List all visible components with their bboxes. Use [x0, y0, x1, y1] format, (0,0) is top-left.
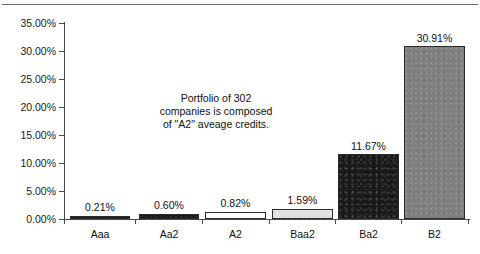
y-axis-tick-label: 20.00% [0, 102, 56, 113]
chart-annotation-line-2: companies is composed [131, 105, 301, 118]
bar-value-label-baa2: 1.59% [272, 194, 333, 206]
y-axis-tick [59, 191, 65, 192]
chart-annotation: Portfolio of 302 companies is composed o… [131, 92, 301, 131]
bar-value-label-b2: 30.91% [404, 32, 465, 44]
x-axis-category-label-aaa: Aaa [70, 228, 130, 240]
x-axis-tick [135, 219, 136, 224]
y-axis-tick-label: 0.00% [0, 214, 56, 225]
y-axis-tick-label: 35.00% [0, 18, 56, 29]
bar-aa2[interactable] [139, 214, 199, 219]
bar-value-label-aaa: 0.21% [70, 201, 130, 213]
y-axis-tick-label: 25.00% [0, 74, 56, 85]
chart-figure: 0.00% 5.00% 10.00% 15.00% 20.00% 25.00% … [0, 0, 480, 254]
x-axis-category-label-baa2: Baa2 [272, 228, 333, 240]
bar-b2[interactable] [404, 46, 465, 219]
y-axis-tick-label: 5.00% [0, 186, 56, 197]
bar-value-label-aa2: 0.60% [139, 199, 199, 211]
chart-annotation-line-1: Portfolio of 302 [131, 92, 301, 105]
y-axis-tick [59, 163, 65, 164]
bar-value-label-a2: 0.82% [205, 197, 266, 209]
x-axis-tick [64, 219, 65, 224]
y-axis-tick [59, 135, 65, 136]
x-axis-tick [202, 219, 203, 224]
x-axis-category-label-b2: B2 [404, 228, 465, 240]
chart-annotation-line-3: of "A2" aveage credits. [131, 118, 301, 131]
x-axis-line [64, 219, 470, 220]
y-axis-tick-label: 15.00% [0, 130, 56, 141]
y-axis-tick-label: 30.00% [0, 46, 56, 57]
bar-baa2[interactable] [272, 209, 333, 219]
y-axis-tick [59, 51, 65, 52]
x-axis-category-label-aa2: Aa2 [139, 228, 199, 240]
y-axis-tick-label: 10.00% [0, 158, 56, 169]
plot-area: 0.00% 5.00% 10.00% 15.00% 20.00% 25.00% … [0, 0, 480, 254]
x-axis-category-label-a2: A2 [205, 228, 266, 240]
x-axis-tick [269, 219, 270, 224]
bar-a2[interactable] [205, 212, 266, 219]
x-axis-tick [401, 219, 402, 224]
bar-ba2[interactable] [338, 154, 399, 219]
x-axis-category-label-ba2: Ba2 [338, 228, 399, 240]
y-axis-tick [59, 23, 65, 24]
y-axis-tick [59, 107, 65, 108]
bar-value-label-ba2: 11.67% [338, 140, 399, 152]
x-axis-tick [468, 219, 469, 224]
y-axis-tick [59, 79, 65, 80]
x-axis-tick [335, 219, 336, 224]
bar-aaa[interactable] [70, 216, 130, 219]
